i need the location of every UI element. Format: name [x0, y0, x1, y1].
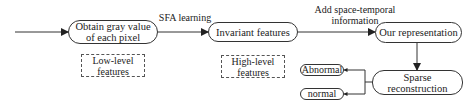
abnormal-node: Abnormal: [300, 64, 344, 76]
sparse-label: Sparse reconstruction: [373, 72, 462, 94]
abnormal-label: Abnormal: [302, 65, 343, 75]
add-info-line1: Add space-temporal: [315, 4, 396, 15]
invariant-label: Invariant features: [216, 27, 290, 38]
low-level-features-annotation: Low-levelfeatures: [81, 54, 145, 77]
low-line2: features: [97, 66, 129, 77]
high-line1: High-level: [232, 56, 275, 67]
add-info-line2: information: [331, 15, 378, 26]
normal-node: normal: [300, 88, 344, 100]
high-level-features-annotation: High-levelfeatures: [221, 55, 285, 78]
obtain-line2: of each pixel: [86, 32, 140, 43]
normal-label: normal: [308, 89, 336, 99]
our-representation-node: Our representation: [375, 22, 462, 43]
sfa-learning-label: SFA learning: [158, 12, 212, 23]
obtain-line1: Obtain gray value: [75, 21, 150, 32]
high-line2: features: [237, 67, 269, 78]
obtain-gray-value-node: Obtain gray valueof each pixel: [68, 20, 158, 44]
low-line1: Low-level: [92, 55, 133, 66]
invariant-features-node: Invariant features: [208, 22, 298, 42]
representation-label: Our representation: [379, 27, 457, 38]
sparse-reconstruction-node: Sparse reconstruction: [372, 70, 463, 95]
